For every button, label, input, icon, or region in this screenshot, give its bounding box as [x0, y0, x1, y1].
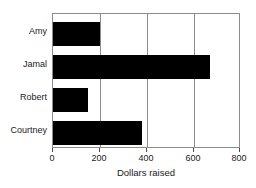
- plot-area: [52, 13, 240, 148]
- y-label-robert-text: Robert: [20, 92, 52, 102]
- y-axis-labels: Amy Jamal Robert Courtney: [0, 13, 52, 148]
- y-label-robert: Robert: [0, 92, 52, 102]
- y-label-jamal: Jamal: [0, 59, 52, 69]
- y-label-courtney-text: Courtney: [10, 125, 52, 135]
- y-label-amy-text: Amy: [29, 26, 52, 36]
- tick-mark-400: [146, 148, 147, 152]
- bar-courtney: [53, 121, 142, 145]
- bar-jamal: [53, 55, 210, 79]
- bar-chart: Amy Jamal Robert Courtney 0 200 400 600 …: [0, 0, 256, 188]
- tick-mark-0: [52, 148, 53, 152]
- gridline-400: [147, 14, 148, 147]
- x-tick-label-200: 200: [79, 153, 119, 164]
- y-label-jamal-text: Jamal: [23, 59, 52, 69]
- gridline-600: [194, 14, 195, 147]
- tick-mark-800: [239, 148, 240, 152]
- x-tick-label-400: 400: [126, 153, 166, 164]
- tick-mark-200: [99, 148, 100, 152]
- bar-amy: [53, 22, 100, 46]
- y-label-amy: Amy: [0, 26, 52, 36]
- bar-robert: [53, 88, 88, 112]
- x-tick-label-800: 800: [219, 153, 256, 164]
- x-axis-title: Dollars raised: [52, 167, 240, 179]
- tick-mark-600: [193, 148, 194, 152]
- x-tick-label-0: 0: [32, 153, 72, 164]
- y-label-courtney: Courtney: [0, 125, 52, 135]
- x-tick-label-600: 600: [173, 153, 213, 164]
